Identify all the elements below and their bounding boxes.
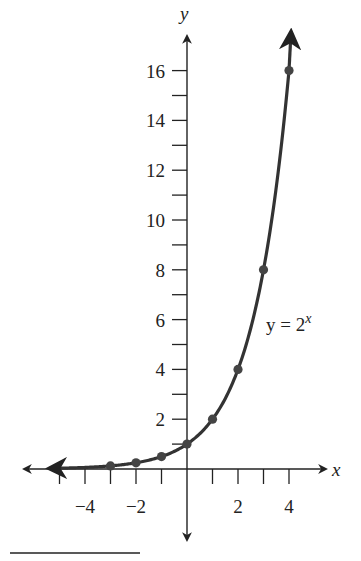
- axes: −4−224246810121416: [24, 36, 326, 540]
- y-tick-label: 6: [156, 310, 166, 331]
- y-tick-label: 8: [156, 260, 166, 281]
- y-tick-label: 2: [156, 409, 166, 430]
- x-tick-label: 4: [284, 496, 294, 517]
- y-tick-label: 12: [146, 160, 165, 181]
- y-axis-label: y: [178, 3, 189, 24]
- data-point: [259, 265, 268, 274]
- x-tick-label: −2: [126, 496, 146, 517]
- data-point: [208, 415, 217, 424]
- data-point: [157, 452, 166, 461]
- data-point: [233, 365, 242, 374]
- equation-label: y = 2x: [266, 311, 312, 335]
- x-tick-label: −4: [75, 496, 96, 517]
- y-tick-label: 10: [146, 210, 165, 231]
- x-axis-label: x: [331, 459, 341, 480]
- data-point: [182, 440, 191, 449]
- exponential-chart: −4−224246810121416 x y y = 2x: [0, 0, 361, 561]
- curve-y-equals-2-to-x: [49, 32, 291, 468]
- data-point: [106, 461, 115, 470]
- y-tick-label: 16: [146, 61, 165, 82]
- data-points: [106, 66, 294, 470]
- data-point: [131, 458, 140, 467]
- x-tick-label: 2: [233, 496, 243, 517]
- y-tick-label: 14: [146, 110, 166, 131]
- y-tick-label: 4: [156, 359, 166, 380]
- data-point: [284, 66, 293, 75]
